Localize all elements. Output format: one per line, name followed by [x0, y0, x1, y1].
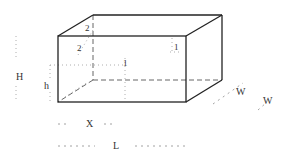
- bottom-right-depth-edge: [186, 80, 222, 102]
- label-height-total: H: [16, 71, 23, 82]
- label-top-offset-front: 2: [77, 43, 82, 53]
- box-dimension-diagram: 2 2 1 1 H h X L W W: [0, 0, 286, 161]
- label-offset-x: X: [86, 118, 94, 129]
- hidden-bottom-depth-edge: [58, 80, 93, 102]
- guide-diagonal-depth: [65, 82, 88, 97]
- top-right-depth-edge: [186, 15, 222, 36]
- label-top-offset-back: 2: [85, 23, 90, 33]
- dimension-guides: [50, 30, 182, 100]
- label-height-partial: h: [44, 80, 49, 91]
- label-inner-mark-right: 1: [174, 42, 179, 52]
- hidden-edges: [58, 15, 222, 102]
- dimension-lines: [16, 36, 266, 146]
- label-width-outer: W: [263, 95, 273, 106]
- label-width-inner: W: [236, 86, 246, 97]
- labels: 2 2 1 1 H h X L W W: [16, 23, 273, 151]
- label-length: L: [113, 140, 119, 151]
- label-inner-mark-left: 1: [123, 58, 128, 68]
- visible-edges: [58, 15, 222, 102]
